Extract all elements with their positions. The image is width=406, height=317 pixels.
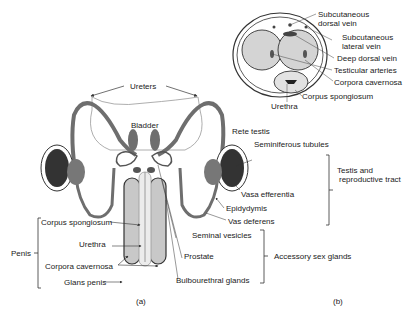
label-epididymis: Epidydymis	[226, 204, 267, 213]
penis-shaft	[124, 172, 166, 266]
label-seminal-vesicles: Seminal vesicles	[192, 231, 252, 240]
label-urethra-a: Urethra	[79, 240, 106, 249]
label-vas-deferens: Vas deferens	[228, 217, 275, 226]
testis-right	[204, 145, 248, 191]
label-ureters: Ureters	[130, 82, 156, 91]
group-penis: Penis	[11, 249, 31, 258]
label-deep-dorsal-vein: Deep dorsal vein	[337, 54, 397, 63]
label-subcutaneous-lateral-vein-2: lateral vein	[342, 42, 381, 51]
group-testis-line2: reproductive tract	[339, 175, 401, 184]
label-seminiferous-tubules: Seminiferous tubules	[254, 140, 329, 149]
label-rete-testis: Rete testis	[232, 127, 270, 136]
label-corpus-spongiosum-a: Corpus spongiosum	[41, 218, 112, 227]
caption-b: (b)	[333, 297, 343, 306]
label-glans-penis: Glans penis	[64, 278, 106, 287]
label-testicular-arteries: Testicular arteries	[334, 66, 397, 75]
label-urethra-b: Urethra	[271, 102, 298, 111]
label-corpora-cavernosa-b: Corpora cavernosa	[334, 78, 402, 87]
label-corpus-spongiosum-b: Corpus spongiosum	[302, 92, 373, 101]
caption-a: (a)	[136, 297, 146, 306]
testis-left	[41, 145, 85, 191]
group-testis-line1: Testis and	[337, 166, 373, 175]
label-prostate: Prostate	[184, 252, 214, 261]
label-vasa-efferentia: Vasa efferentia	[241, 190, 294, 199]
label-subcutaneous-dorsal-vein-2: dorsal vein	[318, 19, 357, 28]
group-accessory-sex-glands: Accessory sex glands	[274, 252, 351, 261]
label-bladder: Bladder	[131, 121, 159, 130]
label-subcutaneous-lateral-vein-1: Subcutaneous	[342, 33, 393, 42]
label-bulbourethral-glands: Bulbourethral glands	[176, 276, 249, 285]
label-subcutaneous-dorsal-vein-1: Subcutaneous	[318, 10, 369, 19]
label-corpora-cavernosa-a: Corpora cavernosa	[45, 262, 113, 271]
